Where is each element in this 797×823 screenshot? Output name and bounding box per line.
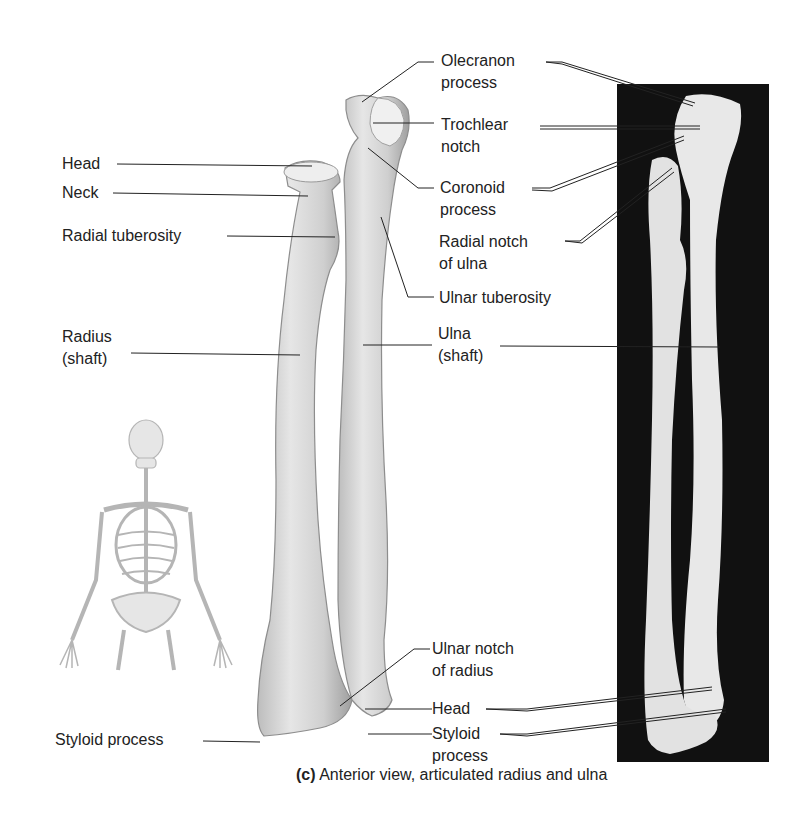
- caption-prefix: (c): [296, 766, 316, 783]
- label-trochlear-line1: Trochlear: [441, 114, 508, 136]
- label-radial-notch-line1: Radial notch: [439, 231, 528, 253]
- label-olecranon-line2: process: [441, 72, 497, 94]
- skeleton-thumbnail-icon: [60, 420, 232, 670]
- label-coronoid-line2: process: [440, 199, 496, 221]
- label-radial-notch-line2: of ulna: [439, 253, 487, 275]
- radius-ulna-figure: Head Neck Radial tuberosity Radius (shaf…: [0, 0, 797, 823]
- caption-text: Anterior view, articulated radius and ul…: [319, 766, 607, 783]
- label-ulna-styloid-line1: Styloid: [432, 723, 480, 745]
- label-ulna-styloid-line2: process: [432, 745, 488, 767]
- label-ulnar-notch-line1: Ulnar notch: [432, 638, 514, 660]
- label-ulna-head: Head: [432, 698, 470, 720]
- bone-photograph: [617, 84, 769, 762]
- label-trochlear-line2: notch: [441, 136, 480, 158]
- label-radial-tuberosity: Radial tuberosity: [62, 225, 181, 247]
- label-radius-styloid-process: Styloid process: [55, 729, 164, 751]
- label-ulnar-notch-line2: of radius: [432, 660, 493, 682]
- label-radius-shaft-line2: (shaft): [62, 348, 107, 370]
- radius-bone-illustration: [258, 161, 352, 736]
- label-olecranon-line1: Olecranon: [441, 50, 515, 72]
- anatomy-illustration: [0, 0, 797, 823]
- label-coronoid-line1: Coronoid: [440, 177, 505, 199]
- label-ulna-shaft-line2: (shaft): [438, 345, 483, 367]
- label-radius-neck: Neck: [62, 182, 98, 204]
- label-radius-head: Head: [62, 153, 100, 175]
- ulna-bone-illustration: [338, 95, 409, 716]
- label-radius-shaft-line1: Radius: [62, 326, 112, 348]
- figure-caption: (c) Anterior view, articulated radius an…: [296, 766, 607, 784]
- label-ulnar-tuberosity: Ulnar tuberosity: [439, 287, 551, 309]
- label-ulna-shaft-line1: Ulna: [438, 323, 471, 345]
